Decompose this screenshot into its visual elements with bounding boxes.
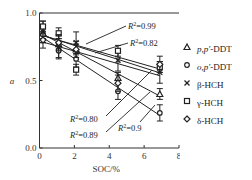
svg-text:R2=0.82: R2=0.82 (129, 38, 158, 48)
svg-text:R2=0.80: R2=0.80 (69, 114, 98, 124)
legend-item: β-HCH (182, 76, 232, 94)
svg-text:0.0: 0.0 (25, 143, 37, 153)
square-marker-icon (182, 94, 197, 112)
legend: p,p'-DDT o,p'-DDT β-HCH γ-HCH δ-HCH (182, 40, 232, 130)
svg-text:R2=0.9: R2=0.9 (117, 123, 142, 133)
svg-text:R2=0.89: R2=0.89 (69, 130, 98, 140)
diamond-marker-icon (182, 112, 197, 130)
svg-text:0.5: 0.5 (25, 76, 37, 86)
svg-text:R2=0.99: R2=0.99 (127, 21, 156, 31)
svg-text:a: a (10, 76, 15, 86)
svg-text:4: 4 (107, 151, 112, 161)
triangle-marker-icon (182, 40, 197, 58)
svg-text:0: 0 (37, 151, 42, 161)
svg-text:2: 2 (72, 151, 77, 161)
x-marker-icon (182, 76, 197, 94)
legend-item: o,p'-DDT (182, 58, 232, 76)
circle-marker-icon (182, 58, 197, 76)
chart-plot: 024680.00.51.0SOC/%a R2=0.99R2=0.82R2=0.… (0, 0, 180, 180)
svg-text:SOC/%: SOC/% (92, 164, 120, 174)
legend-item: δ-HCH (182, 112, 232, 130)
r2-annotations: R2=0.99R2=0.82R2=0.80R2=0.89R2=0.9 (69, 21, 158, 140)
legend-item: γ-HCH (182, 94, 232, 112)
svg-text:1.0: 1.0 (25, 8, 37, 18)
svg-text:6: 6 (142, 151, 147, 161)
legend-item: p,p'-DDT (182, 40, 232, 58)
svg-text:8: 8 (177, 151, 180, 161)
axes: 024680.00.51.0SOC/%a (10, 8, 180, 174)
